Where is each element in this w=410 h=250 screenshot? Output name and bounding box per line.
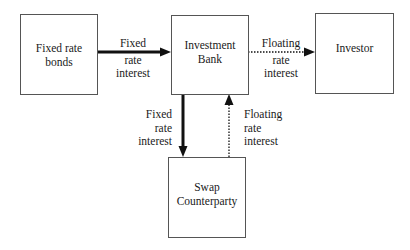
node-swap-counterparty: Swap Counterparty [168,157,246,238]
node-investment-bank: Investment Bank [171,15,249,95]
node-label: Investor [336,41,374,55]
edge-label-bank-to-swap: Fixed rate interest [120,108,172,149]
edge-label-bonds-to-bank: Fixed rate interest [104,37,162,81]
node-label: bonds [36,55,82,69]
node-label: Fixed rate [36,41,82,55]
node-label: Counterparty [177,194,238,208]
node-fixed-rate-bonds: Fixed rate bonds [20,14,98,95]
node-label: Investment [184,38,235,52]
edge-label-swap-to-bank: Floating rate interest [244,108,304,149]
node-label: Swap [177,180,238,194]
node-label: Bank [184,52,235,66]
arrow-swap-to-bank [225,94,234,157]
edge-label-bank-to-investor: Floating rate interest [252,37,310,81]
node-investor: Investor [315,13,394,94]
arrow-bank-to-swap [179,94,188,157]
